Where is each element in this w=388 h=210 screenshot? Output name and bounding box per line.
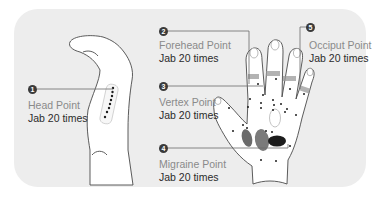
dark-palm-zone (268, 136, 286, 147)
point-dose: Jab 20 times (159, 171, 226, 184)
point-4-label: Migraine Point Jab 20 times (159, 158, 226, 184)
point-name: Head Point (28, 99, 88, 112)
point-dose: Jab 20 times (159, 109, 219, 122)
point-dose: Jab 20 times (159, 52, 231, 65)
point-dose: Jab 20 times (28, 112, 88, 125)
badge-1: 1 (28, 85, 37, 94)
palm-center-zone (270, 109, 281, 127)
point-name: Forehead Point (159, 39, 231, 52)
badge-4: 4 (159, 144, 168, 153)
point-name: Migraine Point (159, 158, 226, 171)
badge-2: 2 (159, 27, 168, 36)
point-3-label: Vertex Point Jab 20 times (159, 96, 219, 122)
point-5-label: Occiput Point Jab 20 times (309, 39, 371, 65)
badge-3: 3 (159, 82, 168, 91)
point-1-label: Head Point Jab 20 times (28, 99, 88, 125)
point-name: Occiput Point (309, 39, 371, 52)
badge-5: 5 (306, 23, 315, 32)
point-2-label: Forehead Point Jab 20 times (159, 39, 231, 65)
point-dose: Jab 20 times (309, 52, 371, 65)
point-name: Vertex Point (159, 96, 219, 109)
